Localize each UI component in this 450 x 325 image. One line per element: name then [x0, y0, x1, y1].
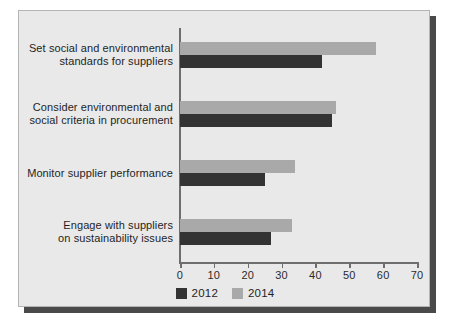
chart-legend: 20122014 — [19, 287, 430, 299]
bar-2012 — [180, 232, 271, 245]
category-label-line: Monitor supplier performance — [18, 167, 173, 180]
x-axis-tick — [282, 262, 284, 268]
x-axis-tick-label: 0 — [165, 269, 195, 281]
legend-item-2012[interactable]: 2012 — [176, 287, 218, 299]
x-axis-tick-label: 70 — [402, 269, 430, 281]
bar-2012 — [180, 55, 322, 68]
x-axis-tick — [214, 262, 216, 268]
category-label-line: Consider environmental and — [18, 101, 173, 114]
legend-item-2014[interactable]: 2014 — [232, 287, 274, 299]
x-axis-tick — [315, 262, 317, 268]
x-axis-tick-label: 60 — [368, 269, 398, 281]
bar-2012 — [180, 114, 332, 127]
x-axis-tick-label: 10 — [199, 269, 229, 281]
x-axis-tick — [349, 262, 351, 268]
plot-area: 010203040506070 Set social and environme… — [19, 11, 430, 307]
bar-2014 — [180, 160, 295, 173]
x-axis-tick-label: 50 — [334, 269, 364, 281]
category-label: Consider environmental andsocial criteri… — [18, 101, 173, 127]
x-axis-tick-label: 40 — [300, 269, 330, 281]
category-label: Set social and environmentalstandards fo… — [18, 42, 173, 68]
category-label-line: Engage with suppliers — [18, 219, 173, 232]
category-label-line: Set social and environmental — [18, 42, 173, 55]
bar-2014 — [180, 42, 376, 55]
legend-swatch-icon — [176, 288, 187, 299]
category-label-line: on sustainability issues — [18, 232, 173, 245]
category-label: Monitor supplier performance — [18, 167, 173, 180]
chart-panel: 010203040506070 Set social and environme… — [18, 10, 430, 307]
bar-2012 — [180, 173, 265, 186]
x-axis-tick — [417, 262, 419, 268]
chart-screenshot: 010203040506070 Set social and environme… — [0, 0, 450, 325]
x-axis-tick — [248, 262, 250, 268]
bar-2014 — [180, 219, 292, 232]
category-label: Engage with supplierson sustainability i… — [18, 219, 173, 245]
x-axis-tick-label: 30 — [267, 269, 297, 281]
legend-label: 2012 — [192, 287, 218, 299]
legend-label: 2014 — [248, 287, 274, 299]
x-axis-tick — [383, 262, 385, 268]
x-axis-tick — [180, 262, 182, 268]
bar-2014 — [180, 101, 336, 114]
legend-swatch-icon — [232, 288, 243, 299]
category-label-line: social criteria in procurement — [18, 114, 173, 127]
category-label-line: standards for suppliers — [18, 55, 173, 68]
x-axis-tick-label: 20 — [233, 269, 263, 281]
